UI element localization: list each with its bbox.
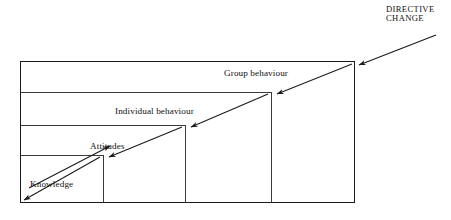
directive-arrow-segment-to-individual: [277, 64, 352, 94]
tier-label-knowledge: Knowledge: [30, 180, 73, 190]
tier-label-individual-behaviour: Individual behaviour: [115, 107, 194, 117]
tier-label-group-behaviour: Group behaviour: [224, 69, 288, 79]
tier-label-attitudes: Attitudes: [90, 142, 125, 152]
directive-change-heading: DIRECTIVECHANGE: [386, 5, 435, 24]
directive-arrow-segment-to-group: [359, 35, 436, 65]
diagram-canvas: Group behaviour Individual behaviour Att…: [0, 0, 451, 220]
directive-arrow-segment-to-attitudes: [191, 94, 268, 127]
directive-change-line-2: CHANGE: [386, 13, 424, 23]
directive-change-arrow-group: [24, 35, 436, 200]
